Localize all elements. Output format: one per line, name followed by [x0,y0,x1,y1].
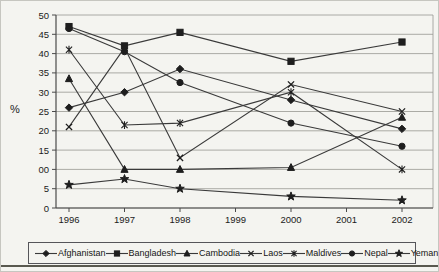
x-tick-label: 2001 [336,214,357,225]
x-tick-label: 1998 [169,214,190,225]
legend-item-bangladesh: Bangladesh [106,248,177,259]
y-tick-label: 30 [38,87,49,98]
x-tick-label: 1996 [58,214,79,225]
star-marker-icon [176,184,185,192]
legend-item-nepal: Nepal [341,248,388,259]
triangle-marker-icon [65,75,72,82]
y-tick-label: 0 [44,203,49,214]
series-maldives [66,46,405,173]
x-tick-label: 1997 [114,214,135,225]
y-tick-label: 45 [38,29,49,40]
square-marker-icon [399,39,405,45]
circle-marker-icon [399,143,405,149]
scan-edge-artifact [1,265,438,267]
x-tick-label: 2000 [280,214,301,225]
y-tick-label: 15 [38,145,49,156]
diamond-marker-icon [287,96,294,103]
legend-label: Nepal [364,248,388,258]
x-legend-icon [240,248,262,259]
y-tick-label: 00 [38,164,49,175]
star-marker-icon [395,249,402,256]
y-tick-label: 35 [38,67,49,78]
legend-item-afghanistan: Afghanistan [35,248,106,259]
diamond-marker-icon [398,125,405,132]
circle-marker-icon [66,25,72,31]
legend-label: Cambodia [199,248,240,258]
asterisk-marker-icon [66,46,72,54]
square-marker-icon [177,29,183,35]
circle-marker-icon [121,49,127,55]
series-afghanistan [65,65,405,132]
diamond-legend-icon [35,248,57,259]
series-cambodia [65,75,405,173]
legend-label: Afghanistan [58,248,106,258]
y-tick-label: 40 [38,48,49,59]
star-marker-icon [65,180,74,188]
chart-legend: AfghanistanBangladeshCambodiaLaosMaldive… [28,242,416,264]
legend-label: Bangladesh [129,248,177,258]
square-marker-icon [288,58,294,64]
circle-marker-icon [177,79,183,85]
legend-label: Yeman [411,248,439,258]
legend-item-cambodia: Cambodia [176,248,240,259]
legend-item-maldives: Maldives [283,248,342,259]
star-marker-icon [287,192,296,200]
triangle-legend-icon [176,248,198,259]
y-axis-title: % [10,103,20,115]
diamond-marker-icon [65,104,72,111]
x-tick-label: 2002 [391,214,412,225]
diamond-marker-icon [121,88,128,95]
x-marker-icon [177,155,183,161]
chart-screenshot: 5045403530252015005019961997199819992000… [0,0,439,272]
diamond-marker-icon [43,250,49,256]
diamond-marker-icon [176,65,183,72]
series-line [69,50,402,170]
asterisk-legend-icon [283,248,305,259]
circle-legend-icon [341,248,363,259]
legend-item-yeman: Yeman [388,248,439,259]
x-tick-label: 1999 [225,214,246,225]
circle-marker-icon [350,250,355,255]
star-marker-icon [120,175,129,183]
line-chart: 5045403530252015005019961997199819992000… [1,1,439,241]
legend-label: Laos [263,248,283,258]
x-marker-icon [66,124,72,130]
square-legend-icon [106,248,128,259]
y-tick-label: 50 [38,10,49,21]
circle-marker-icon [288,120,294,126]
legend-item-laos: Laos [240,248,283,259]
series-line [69,29,402,147]
y-tick-label: 5 [44,183,49,194]
y-tick-label: 20 [38,125,49,136]
y-tick-label: 25 [38,106,49,117]
legend-label: Maldives [306,248,342,258]
series-line [69,179,402,200]
square-marker-icon [114,250,119,255]
series-yeman [65,175,407,204]
star-legend-icon [388,248,410,259]
star-marker-icon [398,196,407,204]
